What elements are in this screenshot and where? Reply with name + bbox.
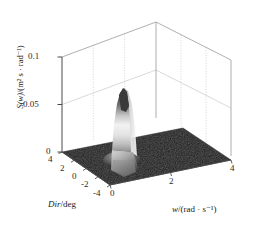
x-tick-4: 4 (230, 164, 235, 173)
x-tick-0: 0 (110, 189, 115, 198)
x-tick-2: 2 (169, 177, 174, 186)
x-axis-title: w/(rad · s⁻¹) (172, 205, 216, 214)
y-axis-title: Dir/deg (48, 200, 76, 209)
z-axis-title-prefix: S(w) (15, 93, 25, 109)
y-axis-title-prefix: Dir (48, 199, 61, 209)
z-axis-title-unit: /(m² s · rad⁻¹) (15, 45, 25, 93)
y-tick-2: 2 (60, 164, 65, 173)
y-tick-0: 0 (72, 172, 77, 181)
surface-plot-figure: 0.1 0.05 0 4 2 0 -2 -4 0 2 4 S(w)/(m² s … (0, 0, 259, 237)
plot-canvas (0, 0, 259, 237)
y-tick-minus4: -4 (93, 189, 101, 198)
z-tick-0.1: 0.1 (28, 52, 39, 61)
y-tick-4: 4 (48, 155, 53, 164)
z-axis-line (58, 57, 63, 152)
z-tick-0.05: 0.05 (23, 100, 39, 109)
y-axis-title-unit: /deg (61, 199, 77, 209)
x-axis-title-unit: /(rad · s⁻¹) (178, 204, 216, 214)
back-wall-left (62, 22, 156, 152)
z-axis-title: S(w)/(m² s · rad⁻¹) (15, 27, 25, 127)
y-tick-minus2: -2 (81, 180, 89, 189)
